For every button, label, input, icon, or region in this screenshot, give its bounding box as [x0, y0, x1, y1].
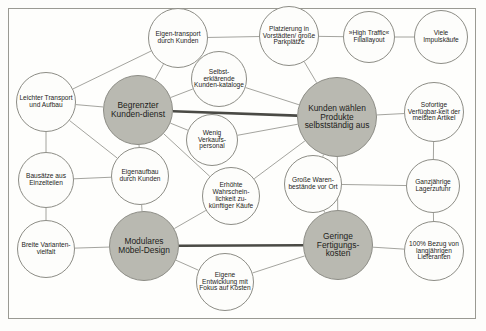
link-s9-s10 [74, 177, 111, 179]
node-label: Begrenzter Kunden-dienst [104, 101, 172, 118]
node-label: »High Traffic« Filiallayout [344, 30, 394, 44]
satellite-node-s4[interactable]: »High Traffic« Filiallayout [343, 11, 395, 63]
diagram-page: Eigen-transport durch KundenSelbst-erklä… [0, 0, 486, 331]
satellite-node-s14[interactable]: Breite Varianten-vielfalt [17, 220, 75, 278]
node-label: Selbst-erklärende Kunden-kataloge [192, 69, 246, 90]
link-s6-c1 [76, 105, 103, 107]
link-s16-c4 [253, 256, 305, 273]
satellite-node-s5[interactable]: Viele Impulskäufe [414, 10, 468, 64]
node-label: Platzierung in Vorstädten/ große Parkplä… [260, 26, 318, 47]
node-label: Eigen-transport durch Kunden [149, 31, 207, 45]
satellite-node-s15[interactable]: 100% Bezug von langjährigen Lieferanten [404, 221, 464, 281]
node-label: Modulares Möbel-Design [110, 237, 178, 254]
link-c1-c2 [173, 111, 297, 115]
link-s14-c3 [75, 247, 109, 248]
satellite-node-s9[interactable]: Bausätze aus Einzelteilen [18, 152, 74, 208]
satellite-node-s7[interactable]: Wenig Verkaufs-personal [186, 114, 238, 166]
link-s11-c3 [174, 210, 206, 228]
node-label: Erhöhte Wahrschein-lichkeit zu-künftiger… [203, 182, 259, 209]
node-label: Geringe Fertigungs-kosten [304, 232, 372, 258]
node-label: Wenig Verkaufs-personal [187, 130, 237, 151]
node-label: Breite Varianten-vielfalt [18, 242, 74, 256]
link-s3-c2 [304, 62, 316, 83]
link-s1-s3 [208, 37, 259, 38]
node-label: Leichter Transport und Aufbau [17, 95, 75, 109]
link-s1-c1 [155, 64, 163, 79]
link-s12-s13 [342, 184, 406, 185]
satellite-node-s2[interactable]: Selbst-erklärende Kunden-kataloge [191, 51, 247, 107]
satellite-node-s12[interactable]: Große Waren-bestände vor Ort [284, 155, 342, 213]
core-node-c2[interactable]: Kunden wählen Produkte selbstständig aus [297, 77, 377, 157]
node-label: Große Waren-bestände vor Ort [285, 177, 341, 191]
link-c2-s8 [377, 114, 404, 115]
satellite-node-s10[interactable]: Eigenaufbau durch Kunden [111, 147, 169, 205]
link-s2-c2 [246, 88, 299, 105]
core-node-c1[interactable]: Begrenzter Kunden-dienst [103, 75, 173, 145]
node-label: Bausätze aus Einzelteilen [19, 173, 73, 187]
node-label: Viele Impulskäufe [415, 30, 467, 44]
satellite-node-s6[interactable]: Leichter Transport und Aufbau [16, 72, 76, 132]
node-label: Eigene Entwicklung mit Fokus auf Kosten [197, 272, 253, 293]
satellite-node-s16[interactable]: Eigene Entwicklung mit Fokus auf Kosten [196, 253, 254, 311]
satellite-node-s3[interactable]: Platzierung in Vorstädten/ große Parkplä… [259, 6, 319, 66]
node-label: Kunden wählen Produkte selbstständig aus [298, 104, 376, 130]
core-node-c3[interactable]: Modulares Möbel-Design [109, 211, 179, 281]
satellite-node-s11[interactable]: Erhöhte Wahrschein-lichkeit zu-künftiger… [202, 167, 260, 225]
link-s7-c2 [238, 124, 298, 135]
link-c1-s7 [170, 123, 187, 130]
link-c3-c4 [179, 245, 303, 246]
core-node-c4[interactable]: Geringe Fertigungs-kosten [303, 210, 373, 280]
satellite-node-s13[interactable]: Ganzjährige Lagerzufuhr [406, 159, 460, 213]
node-label: 100% Bezug von langjährigen Lieferanten [405, 241, 463, 262]
node-label: Eigenaufbau durch Kunden [112, 169, 168, 183]
link-c3-s16 [176, 260, 199, 270]
node-label: Ganzjährige Lagerzufuhr [407, 179, 459, 193]
link-s2-c1 [171, 89, 193, 97]
node-label: Sofortige Verfügbar-keit der meisten Art… [405, 102, 463, 123]
satellite-node-s8[interactable]: Sofortige Verfügbar-keit der meisten Art… [404, 82, 464, 142]
link-c4-s15 [373, 247, 404, 249]
